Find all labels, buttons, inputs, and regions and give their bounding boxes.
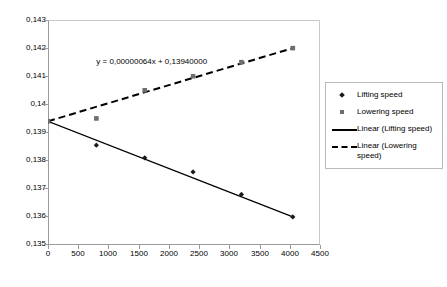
legend-item-label: Lifting speed xyxy=(357,90,402,100)
legend-item-linear-lowering-speed: Linear (Lowering speed) xyxy=(326,139,442,163)
data-point-marker xyxy=(191,74,196,79)
y-axis-labels: 0,143 0,142 0,141 0,14 0,139 0,138 0,137… xyxy=(0,0,46,287)
legend-item-label: Lowering speed xyxy=(357,107,413,117)
y-tick-label: 0,14 xyxy=(4,100,46,108)
x-tick-label: 2000 xyxy=(160,250,178,258)
x-tick-label: 2500 xyxy=(190,250,208,258)
legend: Lifting speed Lowering speed Linear (Lif… xyxy=(325,82,443,169)
data-point-marker xyxy=(290,214,295,219)
dashed-line-icon xyxy=(331,141,357,152)
x-tick-label: 3500 xyxy=(251,250,269,258)
data-point-marker xyxy=(94,116,99,121)
y-tick-label: 0,142 xyxy=(4,44,46,52)
data-point-marker xyxy=(239,60,244,65)
x-tick-label: 1000 xyxy=(99,250,117,258)
data-point-marker xyxy=(291,46,296,51)
trendline-equation: y = 0,00000064x + 0,13940000 xyxy=(96,57,207,66)
x-tick-label: 1500 xyxy=(130,250,148,258)
x-axis-labels: 0 500 1000 1500 2000 2500 3000 3500 4000… xyxy=(0,250,447,264)
trendline xyxy=(48,121,293,217)
data-layer xyxy=(48,20,320,245)
y-tick-label: 0,136 xyxy=(4,212,46,220)
y-tick-label: 0,138 xyxy=(4,156,46,164)
x-tick-label: 3000 xyxy=(220,250,238,258)
x-tick-label: 0 xyxy=(46,250,50,258)
x-tick-label: 4500 xyxy=(311,250,329,258)
legend-item-lifting-speed: Lifting speed xyxy=(326,88,442,105)
y-tick-label: 0,143 xyxy=(4,16,46,24)
legend-item-linear-lifting-speed: Linear (Lifting speed) xyxy=(326,122,442,139)
chart-container: 0,143 0,142 0,141 0,14 0,139 0,138 0,137… xyxy=(0,0,447,287)
square-marker-icon xyxy=(331,107,357,118)
data-point-marker xyxy=(48,119,50,124)
data-point-marker xyxy=(94,143,99,148)
legend-item-label: Linear (Lifting speed) xyxy=(357,124,432,134)
data-point-marker xyxy=(190,169,195,174)
legend-item-label: Linear (Lowering speed) xyxy=(357,141,435,161)
y-tick-label: 0,141 xyxy=(4,72,46,80)
diamond-marker-icon xyxy=(331,90,357,101)
y-tick-label: 0,139 xyxy=(4,128,46,136)
x-tick-label: 4000 xyxy=(281,250,299,258)
y-tick-label: 0,137 xyxy=(4,184,46,192)
data-point-marker xyxy=(142,88,147,93)
legend-item-lowering-speed: Lowering speed xyxy=(326,105,442,122)
x-tick-label: 500 xyxy=(71,250,84,258)
solid-line-icon xyxy=(331,124,357,135)
y-tick-label: 0,135 xyxy=(4,240,46,248)
